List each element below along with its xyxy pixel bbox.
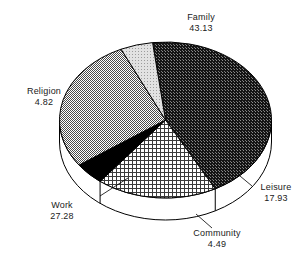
slice-label-religion: Religion 4.82 (8, 86, 80, 108)
slice-label-work: Work 27.28 (26, 200, 98, 222)
slice-label-religion-name: Religion (8, 86, 80, 97)
slice-label-work-value: 27.28 (26, 211, 98, 222)
pie-chart-graphic (0, 0, 308, 262)
slice-label-religion-value: 4.82 (8, 97, 80, 108)
pie-top-face (59, 42, 271, 198)
pie-chart: Family 43.13 Religion 4.82 Work 27.28 Co… (0, 0, 308, 262)
slice-label-community-name: Community (174, 228, 260, 239)
slice-label-family-name: Family (165, 12, 237, 23)
slice-label-community: Community 4.49 (174, 228, 260, 250)
slice-label-work-name: Work (26, 200, 98, 211)
slice-label-leisure-value: 17.93 (246, 193, 306, 204)
slice-label-community-value: 4.49 (174, 239, 260, 250)
slice-label-leisure-name: Leisure (246, 182, 306, 193)
slice-label-family: Family 43.13 (165, 12, 237, 34)
slice-label-family-value: 43.13 (165, 23, 237, 34)
slice-label-leisure: Leisure 17.93 (246, 182, 306, 204)
